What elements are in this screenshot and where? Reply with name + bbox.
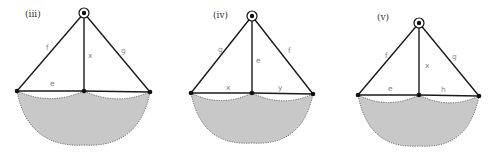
edge-right-diagonal (252, 16, 313, 94)
panel-title: (iii) (25, 9, 41, 19)
edge-label: f (385, 51, 388, 60)
edge-label: x (88, 51, 93, 60)
panels-container: (iii)fxge(iv)gefxy(v)fxgeh (15, 8, 482, 146)
panel-iii: (iii)fxge (15, 8, 153, 145)
edge-right-horizontal (84, 91, 150, 92)
panel-iv: (iv)gefxy (189, 10, 316, 143)
node-middle (82, 89, 87, 94)
pivot-node (82, 11, 86, 15)
edge-right-horizontal (252, 93, 313, 94)
edge-right-horizontal (419, 95, 479, 96)
shaded-region (17, 91, 150, 145)
pivot-node (417, 21, 421, 25)
panel-v: (v)fxgeh (356, 12, 482, 146)
pivot-node (250, 14, 254, 18)
edge-label: e (50, 79, 55, 88)
shaded-region (191, 93, 313, 143)
panel-title: (v) (377, 12, 389, 22)
edge-left-diagonal (191, 16, 252, 93)
node-left (189, 91, 194, 96)
edge-right-diagonal (419, 23, 479, 96)
edge-label: x (226, 83, 231, 92)
edge-label: f (288, 46, 291, 55)
edge-label: h (441, 85, 446, 94)
node-left (356, 93, 361, 98)
node-right (148, 90, 153, 95)
edge-label: y (278, 83, 283, 92)
edge-label: f (46, 43, 49, 52)
node-right (311, 92, 316, 97)
shaded-region (358, 95, 479, 146)
edge-label: e (256, 56, 261, 65)
node-middle (250, 91, 255, 96)
edge-label: g (218, 45, 223, 54)
edge-label: g (121, 46, 126, 55)
edge-label: g (452, 52, 457, 61)
node-left (15, 89, 20, 94)
edge-label: e (388, 84, 393, 93)
edge-label: x (425, 61, 430, 70)
node-right (477, 94, 482, 99)
diagram-figure: (iii)fxge(iv)gefxy(v)fxgeh (0, 0, 496, 158)
edge-right-diagonal (84, 13, 150, 92)
panel-title: (iv) (213, 10, 228, 20)
node-middle (417, 93, 422, 98)
